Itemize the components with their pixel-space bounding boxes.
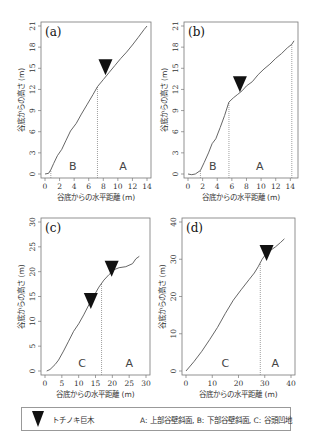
x-tick-label: 4 <box>215 182 220 191</box>
y-tick-label: 12 <box>28 84 37 94</box>
chart-panel-a: 02468101214036912151821谷底からの水平距離 (m)谷底から… <box>16 21 152 202</box>
zone-label-B: B <box>209 160 217 173</box>
x-tick-label: 8 <box>101 182 106 191</box>
y-tick-label: 18 <box>28 42 37 52</box>
zone-label-A: A <box>119 160 127 173</box>
panel-label: (a) <box>45 25 62 39</box>
y-tick-label: 12 <box>171 84 180 94</box>
tree-marker-icon <box>233 76 247 92</box>
x-tick-label: 0 <box>43 182 48 191</box>
x-tick-label: 10 <box>256 182 266 191</box>
slope-profile-line <box>45 26 147 174</box>
x-tick-label: 40 <box>286 379 296 388</box>
x-tick-label: 14 <box>142 182 152 191</box>
y-tick-label: 6 <box>28 129 37 134</box>
x-tick-label: 20 <box>108 379 118 388</box>
y-tick-label: 6 <box>171 129 180 134</box>
x-tick-label: 14 <box>286 182 296 191</box>
x-tick-label: 25 <box>124 379 134 388</box>
y-axis-label: 谷底からの高さ (m) <box>157 264 167 329</box>
y-tick-label: 15 <box>171 63 180 73</box>
panel-label: (b) <box>188 25 205 39</box>
zone-label-A: A <box>271 357 279 370</box>
x-tick-label: 12 <box>271 182 281 191</box>
y-tick-label: 15 <box>28 292 37 302</box>
y-tick-label: 40 <box>169 217 178 227</box>
zone-label-A: A <box>256 160 264 173</box>
y-tick-label: 20 <box>169 292 178 302</box>
plot-frame <box>41 22 151 178</box>
x-tick-label: 0 <box>186 182 191 191</box>
x-axis-label: 谷底からの水平距離 (m) <box>199 389 278 399</box>
panel-label: (c) <box>45 221 61 235</box>
y-tick-label: 0 <box>28 171 37 176</box>
x-tick-label: 12 <box>128 182 138 191</box>
x-tick-label: 10 <box>74 379 84 388</box>
zone-label-C: C <box>78 357 86 370</box>
plot-frame <box>182 218 295 375</box>
chart-panel-d: 010203040010203040谷底からの水平距離 (m)谷底からの高さ (… <box>157 217 296 399</box>
y-tick-label: 20 <box>28 267 37 277</box>
x-tick-label: 20 <box>234 379 244 388</box>
zone-label-A: A <box>125 357 133 370</box>
figure-canvas: 02468101214036912151821谷底からの水平距離 (m)谷底から… <box>0 0 312 433</box>
x-tick-label: 30 <box>260 379 270 388</box>
panel-label: (d) <box>186 221 203 235</box>
y-tick-label: 3 <box>171 150 180 155</box>
y-axis-label: 谷底からの高さ (m) <box>159 68 169 133</box>
y-tick-label: 0 <box>171 171 180 176</box>
legend-tree-label: トチノキ巨木 <box>52 414 94 425</box>
y-tick-label: 10 <box>28 316 37 326</box>
x-tick-label: 0 <box>184 379 189 388</box>
x-tick-label: 4 <box>72 182 77 191</box>
zone-label-B: B <box>69 160 77 173</box>
tree-marker-icon <box>32 411 44 427</box>
x-tick-label: 6 <box>229 182 234 191</box>
legend-box: トチノキ巨木 A: 上部谷壁斜面, B: 下部谷壁斜面, C: 谷頭凹地 <box>21 407 291 431</box>
x-tick-label: 5 <box>59 379 64 388</box>
tree-marker-icon <box>260 245 274 261</box>
y-tick-label: 18 <box>171 42 180 52</box>
x-tick-label: 10 <box>207 379 217 388</box>
zone-label-C: C <box>222 357 230 370</box>
y-tick-label: 21 <box>171 21 180 31</box>
y-tick-label: 21 <box>28 21 37 31</box>
x-tick-label: 10 <box>113 182 123 191</box>
x-tick-label: 6 <box>86 182 91 191</box>
tree-marker-icon <box>84 293 98 309</box>
slope-profile-line <box>188 41 294 175</box>
plot-frame <box>184 22 298 178</box>
x-tick-label: 0 <box>43 379 48 388</box>
y-tick-label: 10 <box>169 329 178 339</box>
y-tick-label: 0 <box>169 368 178 373</box>
x-axis-label: 谷底からの水平距離 (m) <box>57 192 136 202</box>
slope-profile-line <box>47 256 140 371</box>
y-tick-label: 5 <box>28 344 37 349</box>
slope-profile-line <box>186 239 284 371</box>
chart-panel-b: 02468101214036912151821谷底からの水平距離 (m)谷底から… <box>159 21 298 202</box>
y-axis-label: 谷底からの高さ (m) <box>16 68 26 133</box>
x-tick-label: 8 <box>244 182 249 191</box>
x-axis-label: 谷底からの水平距離 (m) <box>202 192 281 202</box>
tree-marker-icon <box>98 59 112 75</box>
x-tick-label: 30 <box>141 379 151 388</box>
y-tick-label: 25 <box>28 242 37 252</box>
y-tick-label: 9 <box>171 108 180 113</box>
y-tick-label: 15 <box>28 63 37 73</box>
y-tick-label: 30 <box>28 217 37 227</box>
x-axis-label: 谷底からの水平距離 (m) <box>56 389 135 399</box>
x-tick-label: 2 <box>200 182 205 191</box>
y-tick-label: 30 <box>169 254 178 264</box>
y-tick-label: 3 <box>28 150 37 155</box>
y-tick-label: 9 <box>28 108 37 113</box>
x-tick-label: 15 <box>91 379 101 388</box>
y-axis-label: 谷底からの高さ (m) <box>16 264 26 329</box>
chart-panel-c: 051015202530051015202530谷底からの水平距離 (m)谷底か… <box>16 217 151 399</box>
x-tick-label: 2 <box>57 182 62 191</box>
y-tick-label: 0 <box>28 368 37 373</box>
legend-zones-label: A: 上部谷壁斜面, B: 下部谷壁斜面, C: 谷頭凹地 <box>140 414 292 425</box>
